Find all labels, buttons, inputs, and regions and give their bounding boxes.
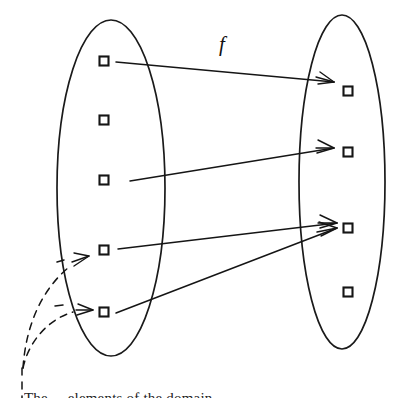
codomain-element-3 bbox=[344, 224, 353, 233]
mapping-arrow-3 bbox=[118, 215, 337, 249]
function-label: f bbox=[219, 32, 228, 56]
domain-element-3 bbox=[100, 176, 109, 185]
figure-caption: The ... elements of the domain bbox=[24, 391, 376, 398]
domain-element-1 bbox=[100, 57, 109, 66]
preimage-arrow-2 bbox=[23, 304, 93, 368]
codomain-element-4 bbox=[344, 288, 353, 297]
domain-element-5 bbox=[100, 308, 109, 317]
domain-element-2 bbox=[100, 116, 109, 125]
domain-set-ellipse bbox=[57, 20, 165, 356]
set-mapping-diagram: f bbox=[0, 0, 397, 398]
figure-canvas: f The ... elements of the domain bbox=[0, 0, 397, 398]
mapping-arrow-2 bbox=[130, 140, 334, 181]
codomain-element-2 bbox=[344, 148, 353, 157]
domain-element-4 bbox=[100, 246, 109, 255]
codomain-set-ellipse bbox=[299, 15, 385, 349]
codomain-element-1 bbox=[344, 87, 353, 96]
mapping-arrow-1 bbox=[116, 62, 334, 84]
crossing-tick-lower bbox=[55, 305, 63, 306]
